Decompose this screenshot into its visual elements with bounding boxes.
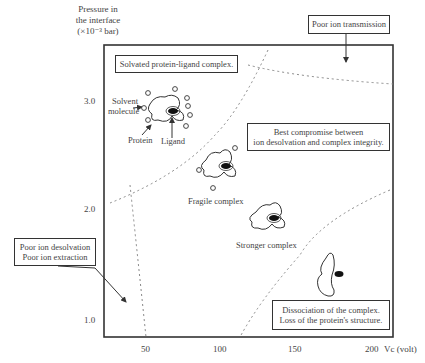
- fragile-complex: [197, 146, 238, 191]
- dissociation-line: Dissociation of the complex.: [282, 305, 380, 316]
- plot-frame: [104, 45, 393, 337]
- best-compromise-line: Best compromise between: [274, 127, 364, 138]
- poor-desolvation-line: Poor ion desolvation: [20, 242, 90, 253]
- solvent-line: Solvent: [108, 96, 138, 106]
- poor-desolvation-line: Poor ion extraction: [22, 252, 87, 263]
- boundary-desolvation: [130, 185, 146, 337]
- boundary-transmission: [248, 65, 393, 84]
- solvated-complex: [142, 87, 193, 129]
- best-compromise-box: Best compromise between ion desolvation …: [247, 123, 390, 151]
- solvated-label: Solvated protein-ligand complex.: [120, 59, 234, 70]
- desolvation-arrow: [58, 266, 126, 302]
- poor-transmission-label: Poor ion transmission: [312, 19, 386, 30]
- protein-arrow: [142, 125, 151, 135]
- solvent-annotation: Solvent molecule: [108, 96, 138, 116]
- solvent-line: molecule: [108, 106, 138, 116]
- stronger-label: Stronger complex: [236, 240, 297, 250]
- poor-desolvation-box: Poor ion desolvation Poor ion extraction: [14, 238, 96, 266]
- ligand-label: Ligand: [161, 136, 185, 146]
- protein-label: Protein: [128, 135, 153, 145]
- fragile-label: Fragile complex: [188, 196, 243, 206]
- best-compromise-line: ion desolvation and complex integrity.: [253, 137, 383, 148]
- stronger-complex: [250, 203, 285, 230]
- solvated-box: Solvated protein-ligand complex.: [115, 55, 238, 73]
- poor-transmission-box: Poor ion transmission: [308, 15, 390, 34]
- dissociated-complex: [318, 253, 344, 296]
- dissociation-box: Dissociation of the complex. Loss of the…: [272, 300, 390, 330]
- dissociation-line: Loss of the protein's structure.: [280, 315, 383, 326]
